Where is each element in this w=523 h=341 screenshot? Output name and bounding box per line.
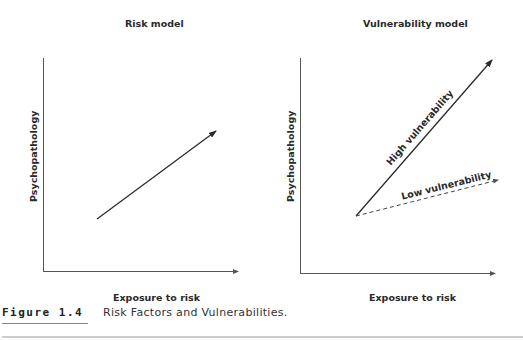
risk-model-x-label: Exposure to risk <box>113 292 200 303</box>
risk-model-line <box>97 131 216 219</box>
vulnerability-model-y-label: Psychopathology <box>285 111 296 202</box>
risk-model-axes <box>43 58 238 272</box>
risk-model-title: Risk model <box>125 18 184 29</box>
figure-number: Figure 1.4 <box>2 306 83 319</box>
figure-caption: Risk Factors and Vulnerabilities. <box>103 306 288 319</box>
vulnerability-model-x-label: Exposure to risk <box>369 292 456 303</box>
diagram-canvas <box>0 0 523 341</box>
risk-arrow <box>97 131 216 219</box>
risk-model-y-label: Psychopathology <box>28 111 39 202</box>
vulnerability-model-title: Vulnerability model <box>363 18 468 29</box>
